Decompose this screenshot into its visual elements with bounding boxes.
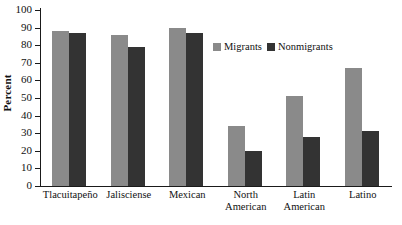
legend-label: Nonmigrants (278, 41, 333, 52)
bar-group (111, 8, 145, 186)
bar-migrants (169, 28, 186, 186)
y-axis-tick-label: 80 (2, 39, 32, 50)
bar-nonmigrants (186, 33, 203, 186)
bar-migrants (52, 31, 69, 186)
legend-item: Migrants (213, 41, 262, 52)
legend-label: Migrants (224, 41, 262, 52)
bar-nonmigrants (362, 131, 379, 186)
y-axis-tick-label: 70 (2, 57, 32, 68)
x-axis-label: Latino (327, 189, 400, 201)
x-axis-label-line: Latino (327, 189, 400, 201)
y-axis-tick-label: 100 (2, 4, 32, 15)
plot-area (40, 8, 392, 186)
bar-chart: Percent 0102030405060708090100 Tlacuitap… (0, 0, 402, 225)
bar-migrants (228, 126, 245, 186)
bar-nonmigrants (69, 33, 86, 186)
y-axis-tick-label: 30 (2, 127, 32, 138)
bar-group (286, 8, 320, 186)
bar-migrants (111, 35, 128, 186)
y-axis-tick-label: 50 (2, 92, 32, 103)
legend-swatch-icon (267, 43, 275, 51)
y-axis-tick-label: 60 (2, 74, 32, 85)
bar-group (169, 8, 203, 186)
bar-group (345, 8, 379, 186)
x-axis-label-line: American (268, 201, 341, 213)
y-axis-tick-label: 0 (2, 180, 32, 191)
y-axis-tick (35, 186, 40, 187)
x-axis-line (40, 186, 392, 187)
bar-group (52, 8, 86, 186)
bar-nonmigrants (128, 47, 145, 186)
chart-legend: MigrantsNonmigrants (213, 41, 333, 52)
legend-item: Nonmigrants (267, 41, 333, 52)
y-axis-tick-label: 40 (2, 110, 32, 121)
bar-nonmigrants (303, 137, 320, 186)
y-axis-tick-label: 10 (2, 162, 32, 173)
bar-migrants (345, 68, 362, 186)
bar-group (228, 8, 262, 186)
bar-migrants (286, 96, 303, 186)
y-axis-tick-label: 90 (2, 22, 32, 33)
y-axis-tick-label: 20 (2, 145, 32, 156)
bar-nonmigrants (245, 151, 262, 186)
legend-swatch-icon (213, 43, 221, 51)
